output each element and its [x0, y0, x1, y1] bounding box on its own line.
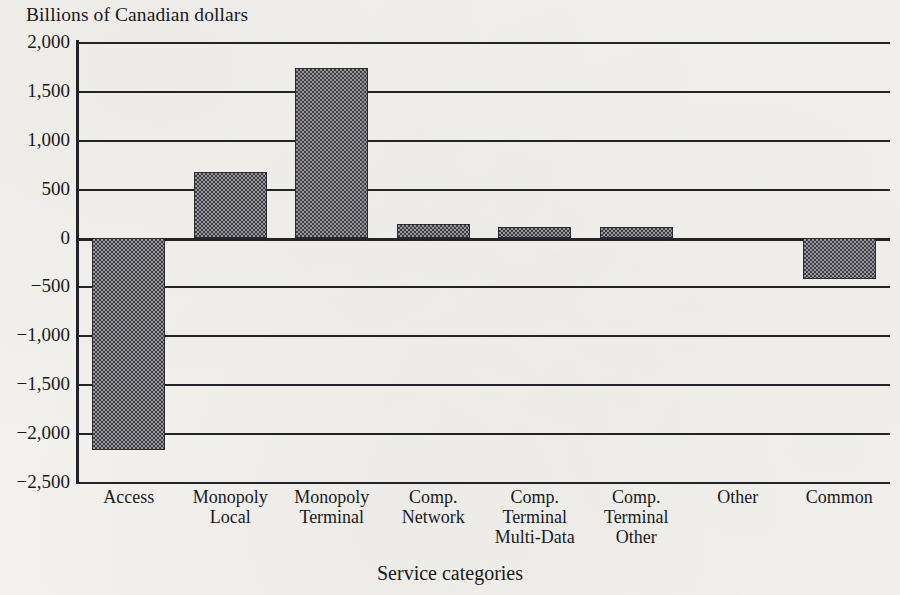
y-tick-label: 1,500 — [0, 80, 70, 102]
x-tick-label: Comp. Terminal Multi-Data — [484, 487, 586, 547]
y-tick-label: 2,000 — [0, 31, 70, 53]
y-tick-label: −1,500 — [0, 373, 70, 395]
x-tick-label: Comp. Network — [383, 487, 485, 527]
y-tick-label: 500 — [0, 178, 70, 200]
y-tick-label: −2,000 — [0, 422, 70, 444]
gridline-2500-neg — [78, 482, 890, 484]
bar-series — [78, 42, 890, 482]
chart-title: Billions of Canadian dollars — [26, 4, 248, 26]
plot-area — [78, 42, 890, 482]
x-tick-label: Common — [789, 487, 891, 507]
y-tick-label: 0 — [0, 227, 70, 249]
y-tick-label: 1,000 — [0, 129, 70, 151]
bar — [600, 227, 673, 238]
y-tick-label: −2,500 — [0, 471, 70, 493]
bar — [92, 238, 165, 450]
x-tick-label: Comp. Terminal Other — [586, 487, 688, 547]
x-tick-label: Monopoly Local — [180, 487, 282, 527]
y-axis-tick-labels: 2,0001,5001,0005000−500−1,000−1,500−2,00… — [0, 42, 70, 482]
y-tick-label: −1,000 — [0, 324, 70, 346]
x-tick-label: Other — [687, 487, 789, 507]
bar — [397, 224, 470, 238]
x-axis-title: Service categories — [0, 562, 900, 585]
bar — [295, 68, 368, 237]
bar — [194, 172, 267, 238]
bar — [803, 238, 876, 279]
x-tick-label: Monopoly Terminal — [281, 487, 383, 527]
bar — [498, 227, 571, 238]
x-tick-label: Access — [78, 487, 180, 507]
x-axis-tick-labels: AccessMonopoly LocalMonopoly TerminalCom… — [78, 487, 890, 565]
y-tick-label: −500 — [0, 275, 70, 297]
